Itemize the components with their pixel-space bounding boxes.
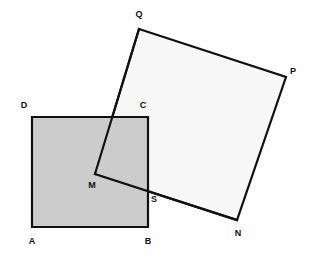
vertex-label-q: Q <box>135 10 142 19</box>
vertex-label-c: C <box>140 101 147 110</box>
geometry-figure: D C A B Q P N M S <box>0 0 311 268</box>
vertex-label-a: A <box>29 237 36 246</box>
figure-canvas <box>0 0 311 268</box>
square-abcd <box>32 117 148 227</box>
vertex-label-d: D <box>21 101 28 110</box>
vertex-label-m: M <box>88 181 96 190</box>
vertex-label-p: P <box>290 67 296 76</box>
vertex-label-s: S <box>151 195 157 204</box>
vertex-label-b: B <box>145 237 152 246</box>
vertex-label-n: N <box>235 229 242 238</box>
